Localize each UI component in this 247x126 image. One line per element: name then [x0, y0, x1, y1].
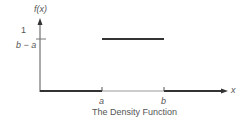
y-axis-arrow-icon	[38, 18, 43, 25]
chart-caption: The Density Function	[92, 107, 177, 117]
x-tick-label-a: a	[99, 96, 104, 106]
y-axis-label: f(x)	[34, 4, 47, 14]
x-axis-label: x	[231, 85, 236, 95]
frac-denominator: b − a	[16, 40, 36, 50]
frac-numerator: 1	[21, 25, 26, 35]
x-tick-label-b: b	[161, 96, 166, 106]
x-axis-arrow-icon	[221, 89, 228, 94]
